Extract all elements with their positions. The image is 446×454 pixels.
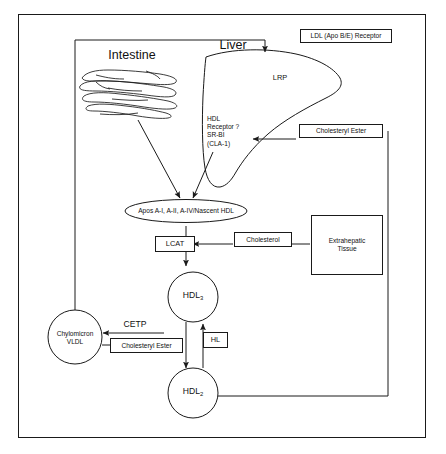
liver-to-apos-arrow — [193, 152, 213, 198]
cholesteryl-ester-top-box[interactable]: Cholesteryl Ester — [299, 124, 383, 138]
hdl3-base-text: HDL — [183, 290, 200, 300]
intestine-label: Intestine — [96, 48, 168, 62]
extrahepatic-tissue-box[interactable]: Extrahepatic Tissue — [311, 215, 383, 275]
chylomicron-vldl-label: Chylomicron VLDL — [46, 330, 104, 346]
hdl2-base-text: HDL — [183, 386, 200, 396]
lrp-label: LRP — [262, 74, 298, 82]
cholesterol-box[interactable]: Cholesterol — [234, 232, 292, 247]
hl-box[interactable]: HL — [203, 332, 228, 348]
ldl-receptor-box[interactable]: LDL (Apo B/E) Receptor — [300, 29, 392, 43]
hdl3-label: HDL3 — [170, 291, 216, 301]
hdl-receptor-label: HDL Receptor ? SR-BI (CLA-1) — [207, 115, 261, 148]
liver-label: Liver — [206, 38, 260, 52]
cetp-label: CETP — [113, 320, 157, 330]
hdl2-subscript: 2 — [200, 391, 203, 397]
hdl3-subscript: 3 — [200, 295, 203, 301]
cholesteryl-ester-bottom-box[interactable]: Cholesteryl Ester — [110, 338, 183, 353]
intestine-to-apos-arrow — [138, 120, 180, 198]
lcat-box[interactable]: LCAT — [155, 236, 195, 252]
hdl-metabolism-diagram: Intestine Liver LRP HDL Receptor ? SR-BI… — [0, 0, 446, 454]
hdl2-label: HDL2 — [170, 387, 216, 397]
apos-label: Apos A-I, A-II, A-IV/Nascent HDL — [126, 207, 246, 214]
intestine-illustration — [80, 70, 177, 118]
